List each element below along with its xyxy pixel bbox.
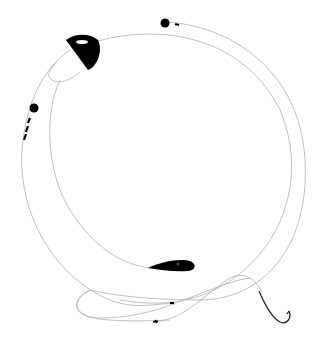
teardrop-sinker-icon bbox=[148, 260, 195, 271]
left-inner-line bbox=[50, 80, 150, 268]
inner-line bbox=[95, 34, 292, 303]
hook-icon bbox=[259, 291, 290, 323]
hook-barb-icon bbox=[287, 311, 289, 314]
hook-leader-line bbox=[155, 275, 262, 322]
sinker-left-icon bbox=[30, 104, 39, 113]
float-tail-line bbox=[49, 60, 80, 82]
float-icon bbox=[66, 35, 100, 70]
lower-loop-line bbox=[77, 278, 250, 318]
sinker-top-icon bbox=[161, 19, 170, 28]
fishing-rig-illustration bbox=[0, 0, 322, 339]
swivel-top-icon bbox=[175, 24, 179, 25]
illustration-canvas bbox=[0, 0, 322, 339]
outer-line bbox=[77, 22, 305, 321]
